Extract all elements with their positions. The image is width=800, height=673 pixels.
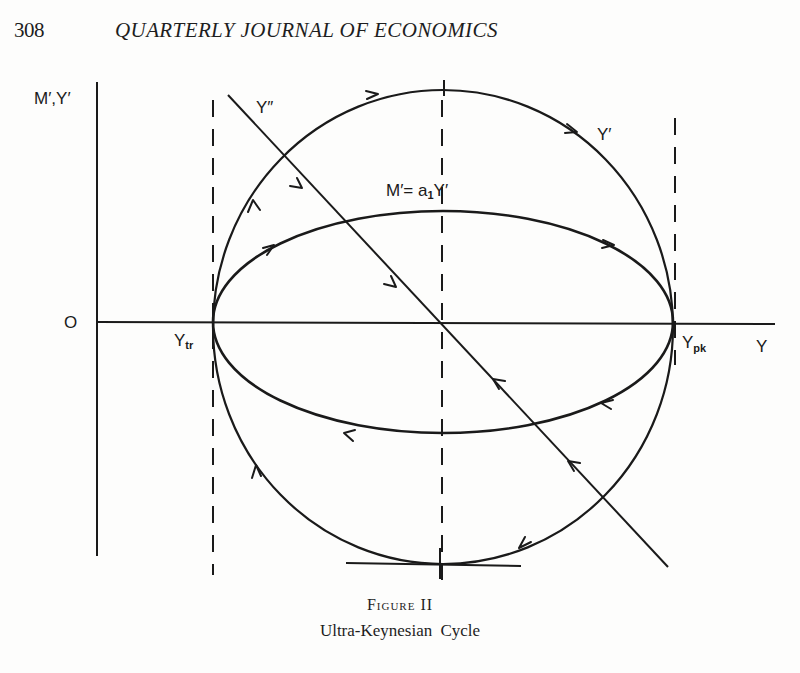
reference-lines bbox=[213, 100, 675, 580]
arrow-icon bbox=[384, 276, 396, 287]
outer-curve-label: Y′ bbox=[597, 125, 612, 144]
inner-curve-label: M′= a1Y′ bbox=[386, 181, 448, 201]
arrow-icon bbox=[248, 200, 260, 212]
peak-label: Ypk bbox=[682, 333, 707, 354]
figure-title: Figure II bbox=[0, 596, 800, 614]
arrow-icon bbox=[252, 465, 261, 478]
trough-label-main: Y bbox=[174, 331, 185, 350]
y-double-prime-line bbox=[228, 95, 668, 567]
y-axis-label: M′,Y′ bbox=[34, 89, 71, 108]
peak-label-main: Y bbox=[682, 333, 693, 352]
y-double-prime-label: Y″ bbox=[256, 98, 273, 117]
arrow-icon bbox=[493, 379, 505, 389]
arrow-icon bbox=[290, 178, 302, 188]
origin-label: O bbox=[64, 313, 77, 332]
trough-label-subscript: tr bbox=[185, 339, 194, 351]
arrow-icon bbox=[366, 91, 378, 99]
direction-arrows bbox=[248, 91, 614, 548]
x-axis-label: Y bbox=[756, 337, 767, 356]
trough-label: Ytr bbox=[174, 331, 194, 351]
inner-curve-label-main: M′= a bbox=[386, 181, 428, 200]
arrow-icon bbox=[344, 430, 355, 441]
figure-caption: Ultra-Keynesian Cycle bbox=[0, 621, 800, 641]
ultra-keynesian-cycle-diagram: M′,Y′ O Y Y″ Y′ M′= a1Y′ Ytr Ypk bbox=[0, 0, 800, 673]
peak-label-subscript: pk bbox=[693, 342, 707, 354]
inner-curve-label-suffix: Y′ bbox=[434, 181, 449, 200]
